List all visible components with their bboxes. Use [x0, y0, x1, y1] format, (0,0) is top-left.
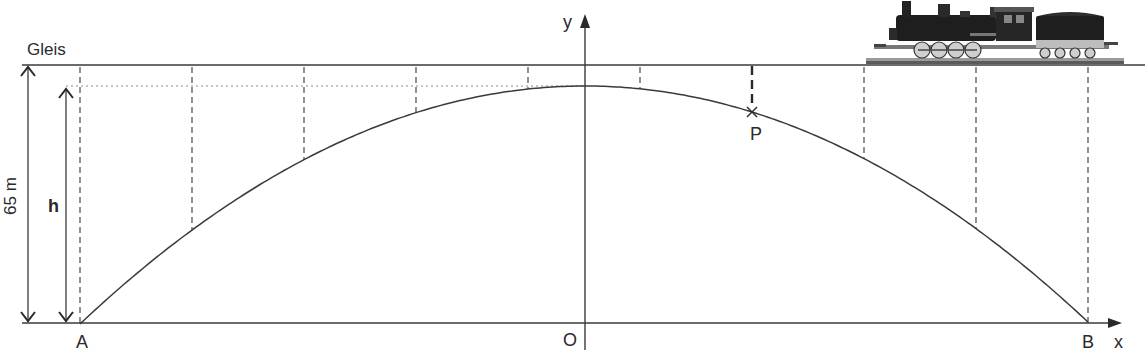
- origin-label: O: [563, 330, 577, 350]
- bridge-parabola-diagram: Gleis 65 m h A O B x y P: [0, 0, 1145, 360]
- y-axis-label: y: [563, 12, 572, 32]
- track-label: Gleis: [27, 40, 66, 59]
- x-axis-arrow-icon: [1108, 318, 1122, 328]
- point-a-label: A: [76, 332, 88, 352]
- p-cross-icon: [747, 107, 757, 117]
- point-b-label: B: [1082, 332, 1094, 352]
- y-axis-arrow-icon: [580, 14, 590, 28]
- total-height-label: 65 m: [1, 177, 20, 215]
- point-p-label: P: [750, 124, 762, 144]
- h-label: h: [48, 196, 59, 216]
- locomotive-image: [866, 1, 1124, 64]
- dashed-pillars: [80, 67, 1088, 323]
- x-axis-label: x: [1114, 332, 1123, 352]
- parabola-arc: [80, 86, 1088, 324]
